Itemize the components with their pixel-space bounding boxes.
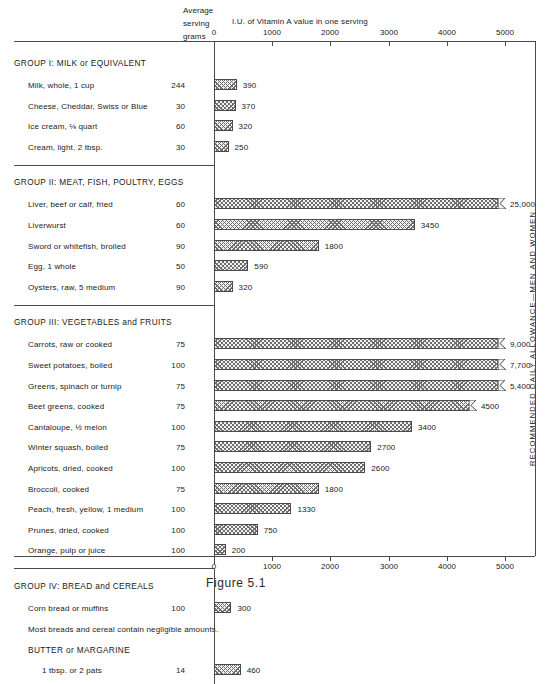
group-separator (14, 305, 214, 306)
row-grams: 75 (155, 382, 185, 391)
axis-tick (389, 556, 390, 561)
row-label: Carrots, raw or cooked (28, 340, 112, 349)
value-label: 3450 (421, 221, 439, 230)
row-grams: 30 (155, 102, 185, 111)
axis-tick (330, 556, 331, 561)
value-label: 750 (264, 526, 278, 535)
broken-axis-marker (469, 400, 478, 411)
value-bar (214, 602, 231, 613)
value-bar (214, 524, 258, 535)
value-bar (214, 503, 291, 514)
axis-tick-label: 4000 (438, 28, 456, 37)
axis-tick (330, 41, 331, 46)
row-grams: 50 (155, 262, 185, 271)
row-grams: 90 (155, 242, 185, 251)
broken-axis-marker (498, 338, 507, 349)
row-grams: 244 (155, 81, 185, 90)
value-label: 2600 (371, 464, 389, 473)
axis-tick-label: 0 (212, 562, 217, 571)
row-grams: 75 (155, 402, 185, 411)
figure-caption: Figure 5.1 (206, 576, 266, 590)
value-label: 3400 (418, 423, 436, 432)
value-bar (214, 260, 248, 271)
axis-title: I.U. of Vitamin A value in one serving (232, 17, 368, 26)
axis-tick-label: 2000 (321, 28, 339, 37)
group-note: Most breads and cereal contain negligibl… (28, 625, 218, 634)
axis-tick (214, 556, 215, 561)
row-label: Cream, light, 2 tbsp. (28, 143, 103, 152)
row-label: Greens, spinach or turnip (28, 382, 122, 391)
value-bar (214, 664, 241, 675)
row-grams: 75 (155, 340, 185, 349)
row-label: Winter squash, boiled (28, 443, 108, 452)
row-grams: 75 (155, 443, 185, 452)
value-label: 250 (235, 143, 249, 152)
row-grams: 100 (155, 423, 185, 432)
row-grams: 100 (155, 464, 185, 473)
axis-tick (505, 556, 506, 561)
value-bar (214, 120, 233, 131)
value-bar (214, 219, 415, 230)
value-bar (214, 483, 319, 494)
value-bar (214, 281, 233, 292)
row-label: Beet greens, cooked (28, 402, 104, 411)
value-label: 25,000 (510, 200, 535, 209)
row-label: Apricots, dried, cooked (28, 464, 113, 473)
value-label: 460 (247, 666, 261, 675)
value-bar (214, 421, 412, 432)
row-label: Oysters, raw, 5 medium (28, 283, 115, 292)
value-label: 1800 (325, 485, 343, 494)
average-serving-line1: Average (183, 4, 225, 17)
broken-axis-marker (498, 198, 507, 209)
row-label: Liverwurst (28, 221, 66, 230)
value-label: 300 (237, 604, 251, 613)
row-grams: 60 (155, 200, 185, 209)
average-serving-header: Average serving grams (183, 4, 225, 43)
value-label: 200 (232, 546, 246, 555)
row-label: Peach, fresh, yellow, 1 medium (28, 505, 143, 514)
axis-tick (272, 556, 273, 561)
row-label: Egg, 1 whole (28, 262, 76, 271)
value-label: 370 (242, 102, 256, 111)
value-label: 1330 (297, 505, 315, 514)
group-separator (14, 568, 214, 569)
row-label: Prunes, dried, cooked (28, 526, 109, 535)
value-label: 1800 (325, 242, 343, 251)
row-label: 1 tbsp. or 2 pats (42, 666, 102, 675)
row-label: Corn bread or muffins (28, 604, 108, 613)
value-label: 320 (239, 283, 253, 292)
row-grams: 75 (155, 485, 185, 494)
row-grams: 14 (155, 666, 185, 675)
axis-tick (272, 41, 273, 46)
value-bar (214, 100, 236, 111)
value-bar (214, 240, 319, 251)
value-bar (214, 359, 499, 370)
row-grams: 100 (155, 546, 185, 555)
average-serving-line2: serving (183, 17, 225, 30)
axis-rule (14, 41, 535, 42)
value-bar (214, 141, 229, 152)
value-label: 320 (239, 122, 253, 131)
axis-tick-label: 3000 (380, 28, 398, 37)
row-label: Ice cream, ⅛ quart (28, 122, 97, 131)
axis-tick-label: 5000 (496, 562, 514, 571)
row-grams: 60 (155, 122, 185, 131)
value-bar (214, 544, 226, 555)
value-label: 4500 (481, 402, 499, 411)
row-label: Sword or whitefish, broiled (28, 242, 126, 251)
value-bar (214, 338, 499, 349)
value-label: 390 (243, 81, 257, 90)
row-grams: 100 (155, 505, 185, 514)
axis-rule (14, 556, 535, 557)
broken-axis-marker (498, 359, 507, 370)
axis-tick-label: 1000 (263, 562, 281, 571)
value-label: 2700 (377, 443, 395, 452)
group-separator (14, 165, 214, 166)
row-grams: 100 (155, 526, 185, 535)
row-label: Milk, whole, 1 cup (28, 81, 94, 90)
row-label: Liver, beef or calf, fried (28, 200, 113, 209)
axis-tick-label: 5000 (496, 28, 514, 37)
row-label: Sweet potatoes, boiled (28, 361, 112, 370)
value-label: 590 (254, 262, 268, 271)
row-grams: 100 (155, 604, 185, 613)
